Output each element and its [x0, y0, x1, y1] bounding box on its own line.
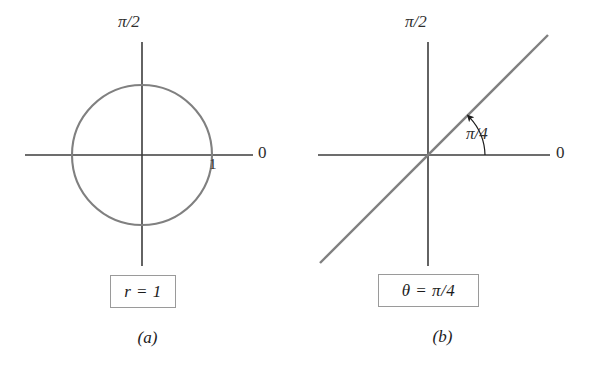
panel-a-pi-over-two-label: π/2: [118, 13, 140, 30]
panel-a-caption: (a): [0, 328, 295, 348]
panel-b-plot: [295, 0, 590, 275]
panel-a-unit-intercept-label: 1: [209, 157, 217, 172]
panel-b-zero-label: 0: [556, 144, 565, 161]
panel-b-angle-label: π/4: [466, 125, 488, 142]
panel-b-polar-line: π/2 0 π/4 θ = π/4 (b): [295, 0, 590, 369]
figure-root: π/2 0 1 r = 1 (a) π/2 0 π/4 θ = π/4: [0, 0, 590, 369]
panel-b-line-curve: [320, 35, 548, 263]
panel-a-zero-label: 0: [258, 144, 267, 161]
panel-b-caption: (b): [295, 327, 590, 347]
panel-a-polar-circle: π/2 0 1 r = 1 (a): [0, 0, 295, 369]
panel-b-pi-over-two-label: π/2: [405, 13, 427, 30]
panel-a-plot: [0, 0, 295, 275]
panel-a-equation-box: r = 1: [110, 275, 176, 308]
panel-b-equation-box: θ = π/4: [378, 274, 479, 307]
